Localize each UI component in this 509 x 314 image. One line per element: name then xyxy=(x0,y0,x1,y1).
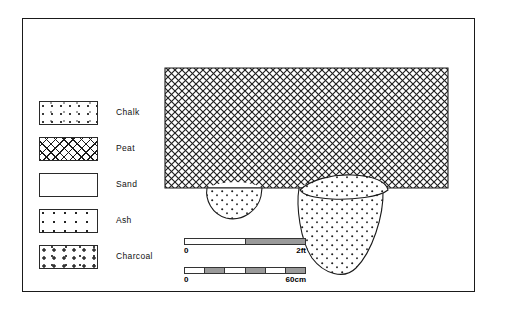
metric-scale-bar: 0 60cm xyxy=(184,267,306,286)
imperial-bar-labels: 0 2ft xyxy=(184,246,306,257)
metric-bar-track xyxy=(184,267,306,274)
scale-bars: 0 2ft 0 60cm xyxy=(184,238,306,296)
sand-stipple-swatch xyxy=(39,173,98,197)
scale-segment xyxy=(185,239,246,244)
scale-end-label: 60cm xyxy=(286,275,306,284)
metric-bar-labels: 0 60cm xyxy=(184,275,306,286)
scale-segment xyxy=(286,268,305,273)
legend-item-label: Ash xyxy=(116,215,132,225)
ash-dots-swatch xyxy=(39,209,98,233)
peat-crosshatch-swatch xyxy=(39,137,98,161)
scale-segment xyxy=(225,268,245,273)
scale-start-label: 0 xyxy=(184,275,188,284)
chalk-hatch-swatch xyxy=(39,101,98,125)
scale-segment xyxy=(246,239,306,244)
scale-end-label: 2ft xyxy=(296,246,306,255)
legend-item-label: Chalk xyxy=(116,107,139,117)
section-drawing-figure: Chalk Peat Sand Ash Charcoal xyxy=(0,0,509,314)
scale-start-label: 0 xyxy=(184,246,188,255)
imperial-bar-track xyxy=(184,238,306,245)
scale-segment xyxy=(246,268,266,273)
scale-segment xyxy=(205,268,225,273)
scale-segment xyxy=(266,268,286,273)
legend-item-label: Peat xyxy=(116,143,135,153)
legend-item-label: Sand xyxy=(116,179,137,189)
charcoal-blobs-swatch xyxy=(39,245,98,269)
scale-segment xyxy=(185,268,205,273)
legend-item-label: Charcoal xyxy=(116,251,153,261)
imperial-scale-bar: 0 2ft xyxy=(184,238,306,257)
